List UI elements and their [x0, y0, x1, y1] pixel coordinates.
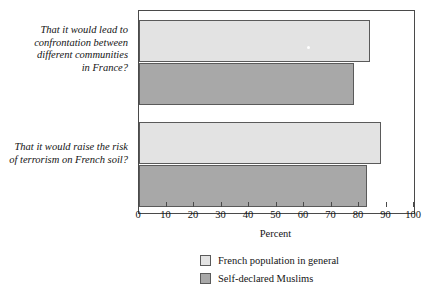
x-tick-label-40: 40	[233, 209, 263, 220]
x-tick-80	[358, 202, 359, 207]
plot-area	[138, 10, 415, 214]
x-tick-label-80: 80	[343, 209, 373, 220]
legend-item-french-population[interactable]: French population in general	[200, 252, 426, 268]
x-tick-label-60: 60	[288, 209, 318, 220]
legend-swatch-icon-self-declared-muslims	[200, 273, 211, 284]
x-tick-10	[166, 202, 167, 207]
x-tick-20	[193, 202, 194, 207]
category-label-0-line-0: That it would lead to	[0, 24, 128, 37]
x-tick-70	[331, 202, 332, 207]
chart-figure: That it would lead to confrontation betw…	[0, 0, 426, 292]
legend-item-self-declared-muslims[interactable]: Self-declared Muslims	[200, 270, 426, 286]
chart-title	[0, 0, 426, 3]
x-tick-label-20: 20	[178, 209, 208, 220]
x-tick-60	[303, 202, 304, 207]
legend-label-french-population: French population in general	[218, 255, 339, 266]
x-tick-label-30: 30	[206, 209, 236, 220]
x-tick-30	[221, 202, 222, 207]
x-tick-label-70: 70	[316, 209, 346, 220]
bar-muslims-confrontation	[139, 63, 354, 105]
x-tick-label-50: 50	[261, 209, 291, 220]
x-tick-label-0: 0	[123, 209, 153, 220]
category-label-1: That it would raise the risk of terroris…	[0, 141, 128, 166]
render-artifact-speck	[307, 46, 310, 49]
category-label-0-line-1: confrontation between	[0, 37, 128, 50]
category-label-1-line-1: of terrorism on French soil?	[0, 154, 128, 167]
bar-french-population-confrontation	[139, 20, 370, 62]
x-tick-100	[413, 202, 414, 207]
x-tick-label-100: 100	[398, 209, 426, 220]
x-tick-90	[386, 202, 387, 207]
bar-muslims-terrorism	[139, 165, 367, 207]
chart-legend: French population in general Self-declar…	[200, 252, 426, 288]
legend-label-self-declared-muslims: Self-declared Muslims	[218, 273, 313, 284]
x-tick-50	[276, 202, 277, 207]
x-tick-label-10: 10	[151, 209, 181, 220]
legend-swatch-icon-french-population	[200, 255, 211, 266]
category-label-1-line-0: That it would raise the risk	[0, 141, 128, 154]
x-tick-0	[138, 202, 139, 207]
x-tick-40	[248, 202, 249, 207]
x-axis-title: Percent	[138, 228, 413, 239]
category-label-0-line-2: different communities	[0, 49, 128, 62]
category-label-0-line-3: in France?	[0, 62, 128, 75]
category-label-0: That it would lead to confrontation betw…	[0, 24, 128, 74]
bar-french-population-terrorism	[139, 122, 381, 164]
category-labels: That it would lead to confrontation betw…	[0, 10, 133, 212]
x-tick-label-90: 90	[371, 209, 401, 220]
